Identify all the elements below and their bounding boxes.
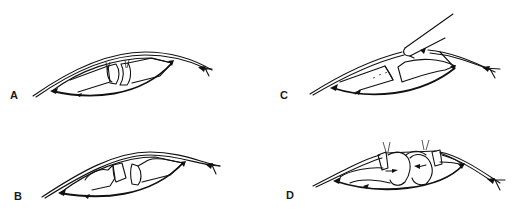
panel-d-drawing [313,140,505,190]
panel-b-label: B [14,190,22,202]
panel-a-label: A [10,89,18,101]
panel-d-label: D [286,189,294,201]
panel-c-label: C [280,89,288,101]
panel-b-drawing [42,152,220,199]
panel-a-drawing [33,52,212,97]
surgical-diagram: A B [0,0,513,210]
panel-c-drawing [310,14,500,95]
